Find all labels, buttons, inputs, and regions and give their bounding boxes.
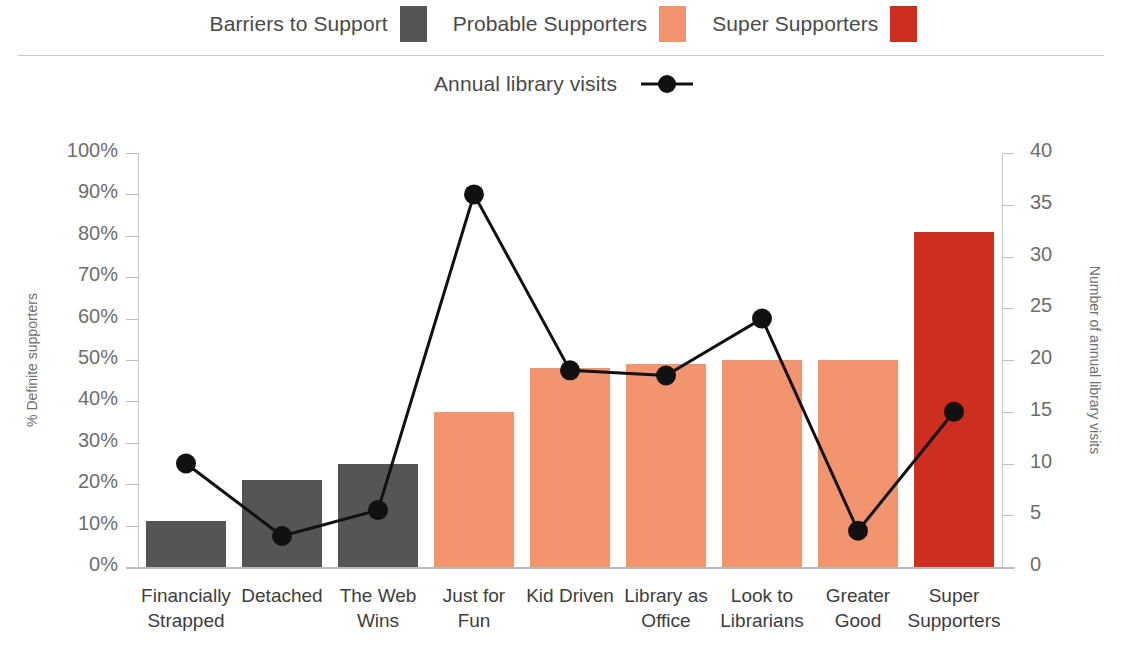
x-axis-label: Look to Librarians xyxy=(714,583,810,633)
x-axis-label: Super Supporters xyxy=(906,583,1002,633)
x-axis-label: Greater Good xyxy=(810,583,906,633)
line-marker-financially-strapped[interactable] xyxy=(176,454,196,474)
line-marker-detached[interactable] xyxy=(272,526,292,546)
x-axis-label: Financially Strapped xyxy=(138,583,234,633)
line-marker-library-as-office[interactable] xyxy=(656,366,676,386)
x-axis-category-labels: Financially StrappedDetachedThe Web Wins… xyxy=(138,583,1002,633)
chart-plot-area: % Definite supporters Number of annual l… xyxy=(0,0,1127,672)
x-axis-label: Just for Fun xyxy=(426,583,522,633)
x-axis-label: Kid Driven xyxy=(522,583,618,633)
line-marker-kid-driven[interactable] xyxy=(560,360,580,380)
line-marker-just-for-fun[interactable] xyxy=(464,184,484,204)
line-marker-look-to-librarians[interactable] xyxy=(752,309,772,329)
x-axis-label: Detached xyxy=(234,583,330,633)
line-series-layer xyxy=(0,0,1127,672)
x-axis-label: The Web Wins xyxy=(330,583,426,633)
line-marker-greater-good[interactable] xyxy=(848,521,868,541)
line-marker-the-web-wins[interactable] xyxy=(368,500,388,520)
line-marker-super-supporters[interactable] xyxy=(944,402,964,422)
x-axis-label: Library as Office xyxy=(618,583,714,633)
